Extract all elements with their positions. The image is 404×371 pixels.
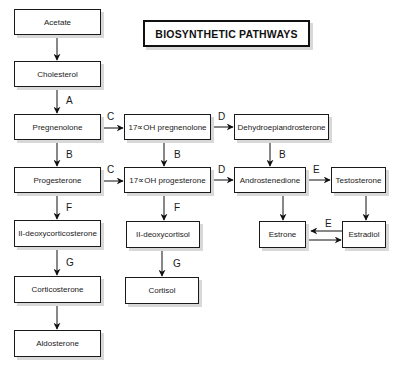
edge-label-f: F [66,203,72,213]
edge-label-c: C [107,112,114,122]
edge-label-g: G [173,259,181,269]
edge-label-a: A [66,96,73,106]
edge-label-e: E [325,219,332,229]
node-17oh-pregnenolone: 17∝OH pregnenolone [124,114,211,140]
edge-label-b: B [279,150,286,160]
edge-label-d: D [218,165,225,175]
node-aldosterone: Aldosterone [14,330,101,357]
node-estradiol: Estradiol [342,221,386,248]
node-deoxycorticosterone: II-deoxycorticosterone [14,220,101,247]
node-androstenedione: Androstenedione [234,167,306,193]
edge-label-b: B [174,150,181,160]
node-cholesterol: Cholesterol [14,61,101,87]
edge-label-c: C [107,165,114,175]
edge-label-d: D [218,112,225,122]
edge-label-e: E [313,165,320,175]
node-17oh-progesterone: 17∝OH progesterone [124,167,211,193]
node-estrone: Estrone [259,221,306,248]
node-pregnenolone: Pregnenolone [14,114,101,140]
node-corticosterone: Corticosterone [14,276,101,303]
node-cortisol: Cortisol [125,277,199,304]
edge-label-b: B [66,150,73,160]
node-acetate: Acetate [14,9,101,35]
node-progesterone: Progesterone [14,167,101,193]
edge-label-g: G [66,258,74,268]
node-testosterone: Testosterone [331,167,386,193]
edge-label-f: F [174,203,180,213]
node-deoxycortisol: II-deoxycortisol [126,221,200,248]
diagram-title: BIOSYNTHETIC PATHWAYS [143,20,310,47]
node-dehydroepiandrosterone: Dehydroepiandrosterone [234,114,329,140]
